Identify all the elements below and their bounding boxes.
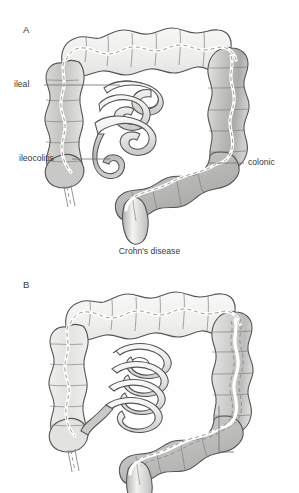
- figure-container: A: [0, 0, 299, 493]
- label-ileocolitis: ileocolitis: [19, 153, 54, 163]
- panel-a-crohns-disease: A: [0, 0, 299, 268]
- small-bowel-b: [81, 344, 171, 435]
- transverse-colon-b: [66, 292, 236, 340]
- label-ileal: ileal: [14, 79, 29, 89]
- small-bowel-coil-4-b: [106, 398, 162, 433]
- panel-b-illustration: [0, 265, 299, 493]
- small-bowel-a: [93, 81, 164, 178]
- appendix-outline2-b: [75, 449, 79, 471]
- panel-a-caption: Crohn's disease: [0, 246, 299, 256]
- appendix-outline2-a: [71, 185, 75, 206]
- terminal-ileum-b: [81, 405, 113, 435]
- panel-a-illustration: [0, 0, 299, 268]
- panel-b-ulcerative-colitis: B: [0, 265, 299, 493]
- transverse-colon-a: [62, 28, 232, 76]
- colon-frame-b: [49, 292, 253, 493]
- label-colonic: colonic: [248, 157, 275, 167]
- colon-frame-a: [44, 28, 249, 244]
